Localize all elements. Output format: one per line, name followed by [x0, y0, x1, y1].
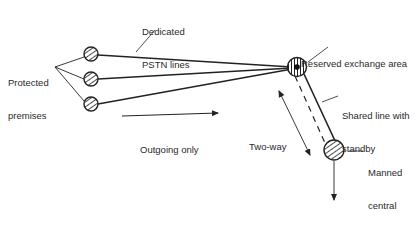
- dedicated-pstn-lines: [98, 55, 292, 104]
- premises-node-1: [84, 47, 98, 61]
- central-station-label-line2: central: [368, 200, 402, 211]
- central-station-node: [324, 140, 344, 160]
- two-way-label: Two-way: [249, 119, 286, 163]
- outgoing-only-label: Outgoing only: [140, 122, 199, 166]
- dedicated-lines-label-line1: Dedicated: [142, 26, 190, 37]
- premises-node-2: [84, 72, 98, 86]
- dedicated-lines-label: Dedicated PSTN lines: [142, 4, 190, 81]
- central-station-label: Manned central station: [368, 145, 402, 226]
- shared-line-leader: [322, 96, 338, 102]
- shared-line-with-standby: [295, 74, 336, 143]
- reserved-exchange-label: Reserved exchange area: [301, 36, 407, 80]
- protected-premises-label: Protected premises: [8, 55, 49, 132]
- shared-line-label-line1: Shared line with: [342, 110, 410, 121]
- outgoing-only-label-text: Outgoing only: [140, 144, 199, 155]
- dedicated-lines-label-line2: PSTN lines: [142, 59, 190, 70]
- response-label: Response: [311, 206, 354, 226]
- protected-premises-leaders: [55, 57, 84, 101]
- protected-premises-label-line1: Protected: [8, 77, 49, 88]
- central-station-label-line1: Manned: [368, 167, 402, 178]
- premises-node-3: [84, 97, 98, 111]
- protected-premises-label-line2: premises: [8, 110, 49, 121]
- reserved-exchange-label-text: Reserved exchange area: [301, 58, 407, 69]
- outgoing-only-arrow: [122, 113, 218, 116]
- two-way-label-text: Two-way: [249, 141, 286, 152]
